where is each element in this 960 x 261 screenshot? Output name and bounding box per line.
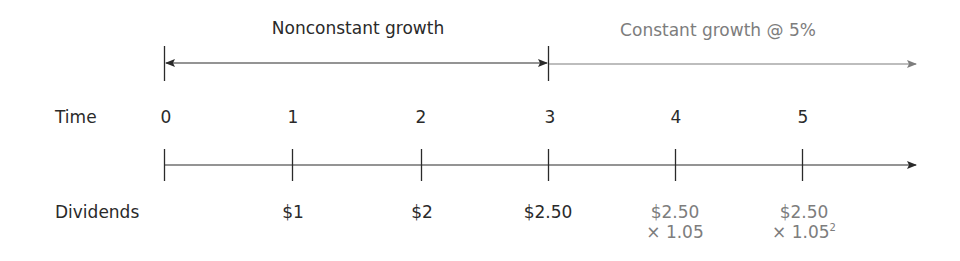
time-4: 4	[671, 107, 682, 127]
time-3: 3	[545, 107, 556, 127]
dividend-5-exponent: 2	[830, 222, 836, 233]
constant-growth-label: Constant growth @ 5%	[620, 20, 816, 40]
nonconstant-growth-label: Nonconstant growth	[272, 18, 444, 38]
time-2: 2	[416, 107, 427, 127]
dividend-1: $1	[282, 202, 304, 222]
time-0: 0	[161, 107, 172, 127]
time-5: 5	[798, 107, 809, 127]
dividends-row-label: Dividends	[55, 202, 139, 222]
time-row-label: Time	[55, 107, 97, 127]
dividend-5-base: $2.50	[772, 202, 836, 222]
dividend-4-growth: × 1.05	[646, 222, 704, 242]
dividend-4: $2.50 × 1.05	[646, 202, 704, 242]
dividend-4-base: $2.50	[646, 202, 704, 222]
dividend-5-growth: × 1.052	[772, 222, 836, 242]
dividend-5: $2.50 × 1.052	[772, 202, 836, 242]
dividend-3: $2.50	[524, 202, 573, 222]
dividend-2: $2	[411, 202, 433, 222]
time-1: 1	[288, 107, 299, 127]
dividend-5-growth-factor: × 1.05	[772, 222, 830, 242]
